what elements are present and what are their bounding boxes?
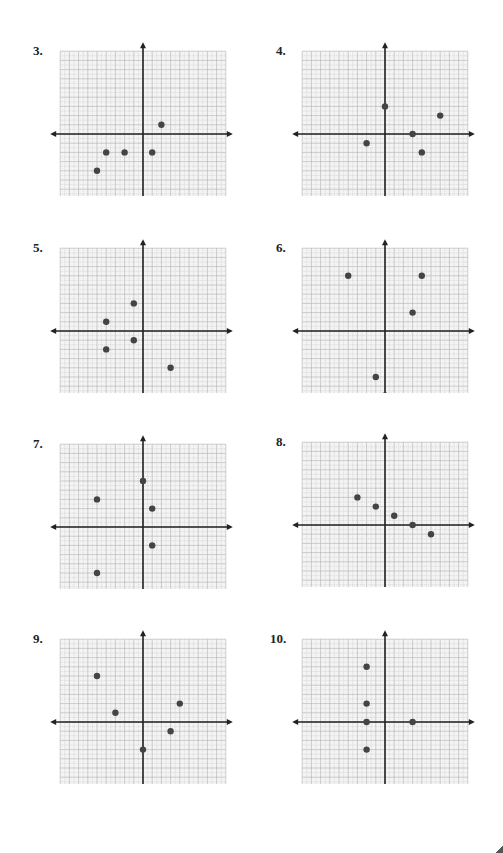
arrow-left-icon bbox=[292, 522, 298, 528]
plotted-point bbox=[363, 719, 369, 725]
plotted-point bbox=[409, 719, 415, 725]
plotted-point bbox=[167, 365, 173, 371]
plotted-point bbox=[131, 337, 137, 343]
arrow-up-icon bbox=[140, 42, 146, 48]
coordinate-plane-4: 4. bbox=[242, 0, 492, 196]
arrow-right-icon bbox=[469, 719, 475, 725]
plot-area bbox=[0, 393, 250, 589]
plotted-point bbox=[149, 542, 155, 548]
arrow-left-icon bbox=[50, 328, 56, 334]
plotted-point bbox=[149, 505, 155, 511]
arrow-up-icon bbox=[140, 239, 146, 245]
plotted-point bbox=[158, 122, 164, 128]
plotted-point bbox=[363, 700, 369, 706]
arrow-right-icon bbox=[227, 328, 233, 334]
arrow-right-icon bbox=[227, 131, 233, 137]
plot-area bbox=[242, 0, 492, 196]
plotted-point bbox=[373, 374, 379, 380]
plot-area bbox=[242, 391, 492, 587]
plotted-point bbox=[103, 319, 109, 325]
plotted-point bbox=[409, 309, 415, 315]
plotted-point bbox=[94, 673, 100, 679]
arrow-right-icon bbox=[469, 328, 475, 334]
coordinate-plane-8: 8. bbox=[242, 391, 492, 587]
arrow-up-icon bbox=[140, 630, 146, 636]
plotted-point bbox=[363, 746, 369, 752]
plotted-point bbox=[428, 531, 434, 537]
arrow-up-icon bbox=[382, 42, 388, 48]
plotted-point bbox=[354, 494, 360, 500]
plot-area bbox=[0, 0, 250, 196]
plotted-point bbox=[167, 728, 173, 734]
plot-area bbox=[0, 197, 250, 393]
plotted-point bbox=[437, 112, 443, 118]
plotted-point bbox=[409, 522, 415, 528]
arrow-up-icon bbox=[382, 630, 388, 636]
plotted-point bbox=[419, 149, 425, 155]
plotted-point bbox=[112, 710, 118, 716]
page-curl-icon bbox=[496, 845, 503, 853]
arrow-up-icon bbox=[140, 435, 146, 441]
coordinate-plane-6: 6. bbox=[242, 197, 492, 393]
plotted-point bbox=[149, 149, 155, 155]
plotted-point bbox=[363, 140, 369, 146]
plotted-point bbox=[363, 664, 369, 670]
plotted-point bbox=[94, 168, 100, 174]
coordinate-plane-3: 3. bbox=[0, 0, 250, 196]
plotted-point bbox=[391, 513, 397, 519]
arrow-left-icon bbox=[50, 524, 56, 530]
arrow-left-icon bbox=[292, 719, 298, 725]
arrow-left-icon bbox=[50, 719, 56, 725]
plotted-point bbox=[103, 346, 109, 352]
plotted-point bbox=[94, 570, 100, 576]
plot-area bbox=[242, 197, 492, 393]
plotted-point bbox=[373, 503, 379, 509]
arrow-right-icon bbox=[227, 719, 233, 725]
plotted-point bbox=[177, 700, 183, 706]
arrow-left-icon bbox=[292, 328, 298, 334]
arrow-right-icon bbox=[469, 522, 475, 528]
plotted-point bbox=[140, 478, 146, 484]
arrow-right-icon bbox=[469, 131, 475, 137]
coordinate-plane-5: 5. bbox=[0, 197, 250, 393]
plotted-point bbox=[121, 149, 127, 155]
arrow-left-icon bbox=[292, 131, 298, 137]
arrow-up-icon bbox=[382, 433, 388, 439]
plotted-point bbox=[382, 103, 388, 109]
plotted-point bbox=[103, 149, 109, 155]
plot-area bbox=[0, 588, 250, 784]
plotted-point bbox=[140, 746, 146, 752]
plotted-point bbox=[345, 273, 351, 279]
coordinate-plane-10: 10. bbox=[242, 588, 492, 784]
arrow-left-icon bbox=[50, 131, 56, 137]
plot-area bbox=[242, 588, 492, 784]
plotted-point bbox=[94, 496, 100, 502]
coordinate-plane-9: 9. bbox=[0, 588, 250, 784]
plotted-point bbox=[131, 300, 137, 306]
coordinate-plane-7: 7. bbox=[0, 393, 250, 589]
plotted-point bbox=[409, 131, 415, 137]
arrow-up-icon bbox=[382, 239, 388, 245]
plotted-point bbox=[419, 273, 425, 279]
arrow-right-icon bbox=[227, 524, 233, 530]
